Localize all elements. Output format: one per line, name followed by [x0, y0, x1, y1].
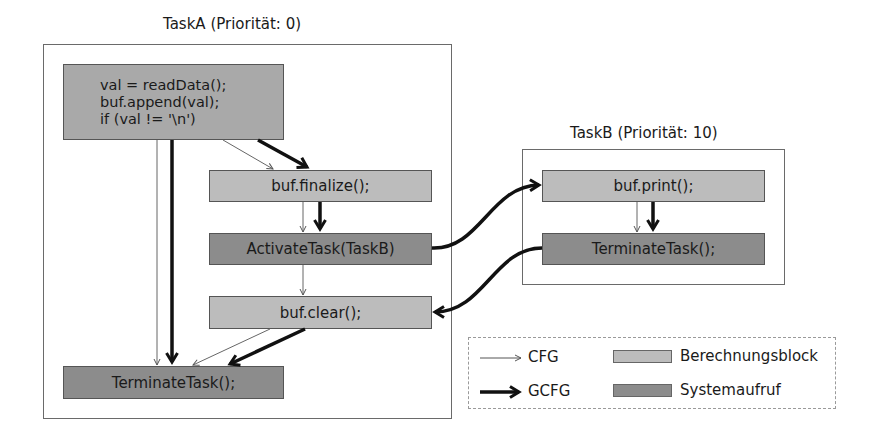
gcfg-edges [172, 140, 653, 364]
legend-cfg-label: CFG [528, 348, 559, 366]
cfg-edge-a4-a5 [193, 329, 270, 365]
gcfg-edge-a4-a5 [230, 329, 305, 364]
syscall-swatch [613, 384, 672, 397]
gcfg-edge-b2-a4 [435, 248, 542, 312]
legend-computation-label: Berechnungsblock [680, 347, 818, 365]
cfg-edges [157, 140, 637, 365]
legend-syscall: Systemaufruf [613, 381, 781, 399]
legend-gcfg: GCFG [528, 382, 570, 400]
legend-cfg: CFG [528, 348, 559, 366]
legend-gcfg-label: GCFG [528, 382, 570, 400]
computation-swatch [613, 350, 672, 363]
gcfg-edge-a3-b1 [432, 185, 539, 248]
legend-syscall-label: Systemaufruf [680, 381, 781, 399]
legend-computation: Berechnungsblock [613, 347, 818, 365]
gcfg-edge-a1-a2 [258, 140, 307, 167]
